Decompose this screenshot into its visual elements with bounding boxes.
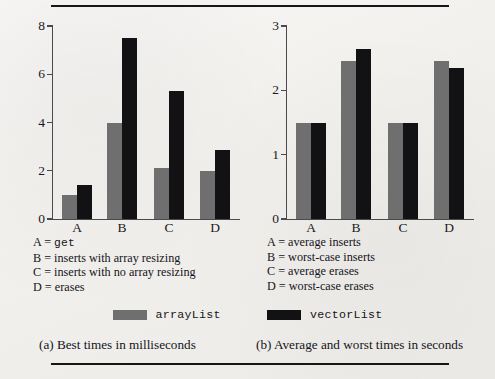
key-letter-B: B =	[33, 251, 54, 265]
key-row-a-B: B = inserts with array resizing	[33, 251, 196, 266]
chart-b-bar-C-vectorList	[403, 123, 418, 220]
figure-page: 02468 ABCD 0123 ABCD A = getB = inserts …	[0, 0, 495, 379]
chart-b-y-tick-label-0: 0	[255, 212, 279, 226]
chart-b-bar-B-arrayList	[341, 61, 356, 219]
legend-label-arrayList: arrayList	[156, 308, 221, 321]
legend-item-vectorList: vectorList	[267, 308, 383, 321]
key-letter-A: A =	[33, 235, 54, 249]
key-letter-D: D =	[33, 280, 55, 294]
chart-b-x-tick-label-D: D	[429, 221, 469, 235]
key-text-C: average erases	[288, 264, 359, 278]
key-text-B: worst-case inserts	[288, 250, 375, 264]
bottom-horizontal-rule	[51, 363, 449, 365]
chart-a-bar-B-arrayList	[107, 123, 122, 220]
key-row-a-C: C = inserts with no array resizing	[33, 265, 196, 280]
chart-a-x-tick-label-B: B	[102, 221, 142, 235]
chart-b-bar-B-vectorList	[356, 49, 371, 219]
chart-a-bar-D-arrayList	[200, 171, 215, 219]
chart-b-key-list: A = average insertsB = worst-case insert…	[267, 235, 375, 293]
key-letter-D: D =	[267, 279, 289, 293]
chart-a-key-list: A = getB = inserts with array resizingC …	[33, 235, 196, 294]
chart-a-y-tick-label-6: 6	[21, 68, 45, 82]
chart-a-figure: 02468 ABCD	[22, 18, 244, 230]
chart-a-y-tick-label-4: 4	[21, 116, 45, 130]
key-row-b-B: B = worst-case inserts	[267, 250, 375, 265]
key-row-b-D: D = worst-case erases	[267, 279, 375, 294]
chart-b-bar-C-arrayList	[388, 123, 403, 220]
key-letter-C: C =	[33, 265, 54, 279]
chart-b-bar-group-B	[336, 26, 376, 219]
chart-a-x-tick-label-D: D	[195, 221, 235, 235]
legend-item-arrayList: arrayList	[113, 308, 221, 321]
chart-b-x-tick-label-C: C	[383, 221, 423, 235]
chart-b-bar-group-C	[383, 26, 423, 219]
chart-a-x-tick-label-C: C	[149, 221, 189, 235]
key-row-b-A: A = average inserts	[267, 235, 375, 250]
chart-b-y-tick-label-3: 3	[255, 19, 279, 33]
caption-b: (b) Average and worst times in seconds	[256, 337, 463, 353]
key-letter-B: B =	[267, 250, 288, 264]
key-text-C: inserts with no array resizing	[54, 265, 195, 279]
legend-label-vectorList: vectorList	[310, 308, 383, 321]
chart-a-y-tick-label-8: 8	[21, 19, 45, 33]
chart-b-bar-D-vectorList	[449, 68, 464, 219]
chart-a-bar-D-vectorList	[215, 150, 230, 219]
key-text-A: get	[54, 237, 75, 249]
gray-swatch	[113, 310, 147, 320]
caption-a: (a) Best times in milliseconds	[39, 337, 196, 353]
key-row-a-D: D = erases	[33, 280, 196, 295]
key-letter-A: A =	[267, 235, 288, 249]
chart-a-bar-group-D	[195, 26, 235, 219]
chart-a-bars	[53, 26, 240, 219]
chart-b-bar-A-arrayList	[296, 123, 311, 220]
chart-a-bar-C-vectorList	[169, 91, 184, 219]
chart-b-figure: 0123 ABCD	[256, 18, 478, 230]
chart-a-bar-group-C	[149, 26, 189, 219]
chart-b-x-tick-label-B: B	[336, 221, 376, 235]
chart-a-y-tick-label-0: 0	[21, 212, 45, 226]
figure-captions: (a) Best times in milliseconds (b) Avera…	[0, 337, 495, 357]
key-row-a-A: A = get	[33, 235, 196, 251]
key-text-B: inserts with array resizing	[54, 251, 180, 265]
chart-a-bar-group-A	[57, 26, 97, 219]
chart-b-bars	[287, 26, 474, 219]
chart-a-bar-C-arrayList	[154, 168, 169, 219]
series-legend: arrayListvectorList	[0, 308, 495, 321]
chart-a-bar-B-vectorList	[122, 38, 137, 219]
chart-b-bar-D-arrayList	[434, 61, 449, 219]
chart-b-bar-A-vectorList	[311, 123, 326, 220]
key-text-A: average inserts	[288, 235, 361, 249]
chart-a-bar-A-arrayList	[62, 195, 77, 219]
key-row-b-C: C = average erases	[267, 264, 375, 279]
chart-a-bar-A-vectorList	[77, 185, 92, 219]
chart-a-y-tick-label-2: 2	[21, 164, 45, 178]
key-text-D: erases	[55, 280, 85, 294]
chart-a-plot: 02468 ABCD	[22, 18, 244, 230]
chart-b-x-tick-label-A: A	[291, 221, 331, 235]
key-letter-C: C =	[267, 264, 288, 278]
chart-b-bar-group-A	[291, 26, 331, 219]
chart-b-y-tick-label-2: 2	[255, 84, 279, 98]
chart-b-bar-group-D	[429, 26, 469, 219]
key-text-D: worst-case erases	[289, 279, 374, 293]
chart-a-x-tick-label-A: A	[57, 221, 97, 235]
chart-b-y-tick-label-1: 1	[255, 148, 279, 162]
black-swatch	[267, 310, 301, 320]
chart-b-plot: 0123 ABCD	[256, 18, 478, 230]
chart-a-bar-group-B	[102, 26, 142, 219]
top-horizontal-rule	[51, 5, 449, 7]
